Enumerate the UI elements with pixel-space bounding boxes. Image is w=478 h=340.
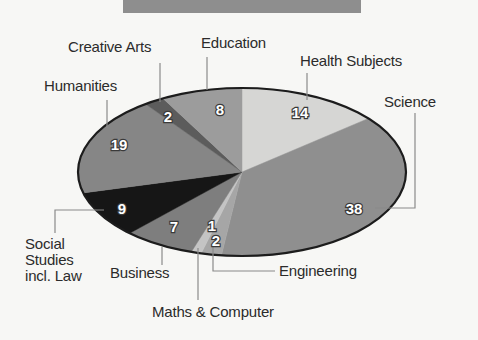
value-humanities: 19 — [111, 136, 128, 153]
value-creative-arts: 2 — [164, 108, 172, 125]
label-social-line3: incl. Law — [25, 268, 82, 283]
label-social-line2: Studies — [25, 252, 74, 267]
label-social-line1: Social — [25, 236, 65, 251]
value-education: 8 — [216, 101, 224, 118]
label-creative-arts: Creative Arts — [68, 39, 151, 54]
label-education: Education — [201, 35, 266, 50]
value-engineering: 2 — [212, 232, 220, 249]
label-health: Health Subjects — [300, 53, 402, 68]
label-science: Science — [384, 94, 436, 109]
label-business: Business — [110, 265, 169, 280]
value-social: 9 — [118, 200, 126, 217]
value-business: 7 — [170, 218, 178, 235]
label-humanities: Humanities — [44, 78, 117, 93]
value-science: 38 — [346, 200, 363, 217]
label-engineering: Engineering — [279, 263, 357, 278]
label-maths: Maths & Computer — [152, 304, 274, 319]
value-health: 14 — [292, 104, 309, 121]
